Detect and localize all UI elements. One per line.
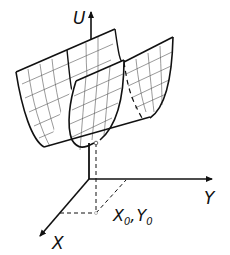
base-point (95, 212, 98, 215)
diagram-canvas: U Y X X0,Y0 (0, 0, 230, 255)
right-trough-surface (124, 37, 173, 118)
x-axis-label: X (51, 233, 64, 253)
x-axis (40, 179, 89, 236)
surface-point (94, 141, 98, 145)
u-axis-label: U (73, 8, 86, 28)
svg-text:X0,Y0: X0,Y0 (112, 206, 153, 227)
y-axis-label: Y (204, 188, 216, 208)
point-label: X0,Y0 (112, 206, 153, 227)
